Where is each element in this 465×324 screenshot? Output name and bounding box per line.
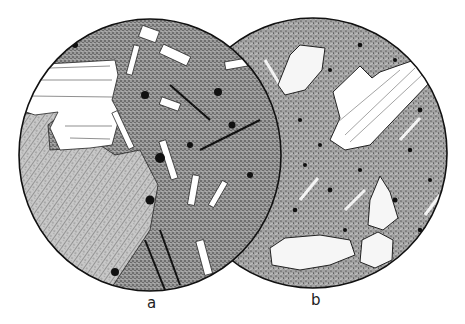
thin-section-figure	[0, 0, 465, 324]
panel-label-b: b	[311, 293, 321, 308]
panel-label-a: a	[147, 296, 156, 311]
panel-a-thin-section	[10, 19, 281, 291]
